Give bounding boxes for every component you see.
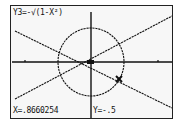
equation-label: Y3=-√(1-X²) [13,8,63,17]
trace-x-value: X=.8660254 [13,106,58,115]
trace-y-value: Y=-.5 [93,106,116,115]
trace-cursor-icon [116,76,122,82]
origin-marker [87,60,94,64]
